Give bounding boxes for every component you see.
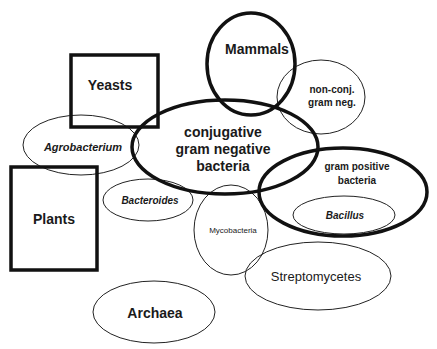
bacteroides-label: Bacteroides: [121, 195, 179, 206]
grampositive-label-2: bacteria: [338, 175, 377, 186]
streptomycetes-label: Streptomycetes: [271, 269, 362, 284]
agrobacterium-label: Agrobacterium: [43, 141, 122, 153]
conjugative-label-1: conjugative: [184, 124, 262, 140]
mammals-label: Mammals: [225, 41, 289, 57]
mycobacteria-label: Mycobacteria: [209, 226, 257, 235]
organism-diagram: Yeasts Plants Mammals non-conj. gram neg…: [0, 0, 437, 349]
conjugative-label-2: gram negative: [176, 141, 271, 157]
conjugative-label-3: bacteria: [196, 158, 250, 174]
plants-label: Plants: [33, 211, 75, 227]
nonconj-label-2: gram neg.: [308, 97, 356, 108]
archaea-label: Archaea: [127, 305, 182, 321]
nonconj-label-1: non-conj.: [310, 84, 355, 95]
grampositive-label-1: gram positive: [324, 161, 389, 172]
yeasts-label: Yeasts: [88, 77, 133, 93]
bacillus-label: Bacillus: [326, 210, 365, 221]
